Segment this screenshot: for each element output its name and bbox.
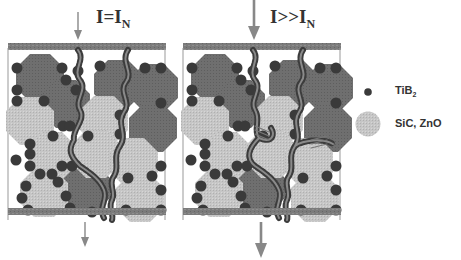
label-sub: N xyxy=(306,17,315,31)
panel-label-normal: I=IN xyxy=(96,6,130,32)
top-electrode xyxy=(183,43,341,50)
bottom-electrode xyxy=(183,208,341,215)
current-out-arrow-icon xyxy=(255,222,267,258)
label-main: I>>I xyxy=(270,6,306,27)
current-in-arrow-icon xyxy=(248,0,260,40)
legend-sub: 2 xyxy=(413,91,417,98)
label-sub: N xyxy=(122,17,131,31)
tib2-dot-icon xyxy=(364,88,372,96)
legend-main: SiC, ZnO xyxy=(395,117,441,129)
panel-normal-current xyxy=(6,12,178,247)
legend-main: TiB xyxy=(395,84,413,96)
legend-label-tib2: TiB2 xyxy=(395,84,416,98)
label-main: I=I xyxy=(96,6,122,27)
top-electrode xyxy=(8,43,166,50)
bottom-electrode xyxy=(8,208,166,215)
current-out-arrow-icon xyxy=(81,222,89,247)
panel-overcurrent xyxy=(181,0,353,258)
panel-label-overcurrent: I>>IN xyxy=(270,6,315,32)
sic-zno-grain-icon xyxy=(356,112,381,137)
current-in-arrow-icon xyxy=(74,12,82,40)
legend-label-sic-zno: SiC, ZnO xyxy=(395,117,441,129)
varistor-microstructure-diagram xyxy=(0,0,461,260)
